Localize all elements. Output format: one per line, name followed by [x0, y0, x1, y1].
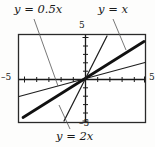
tick-label-y-negative-five: –5 [79, 119, 89, 128]
label-two-x-rhs: 2x [79, 129, 93, 143]
label-x-rhs: x [121, 2, 128, 16]
label-x-eq: = [105, 2, 122, 16]
graph-figure: y = 0.5x y = x y = 2x 5 –5 –5 5 [0, 0, 155, 147]
label-y-equals-half-x: y = 0.5x [14, 4, 62, 16]
label-y-equals-two-x: y = 2x [56, 131, 93, 143]
tick-label-y-positive-five: 5 [79, 21, 85, 30]
label-half-x-rhs: 0.5x [37, 2, 62, 16]
label-half-x-eq: = [21, 2, 38, 16]
label-two-x-eq: = [63, 129, 80, 143]
tick-label-x-negative-five: –5 [1, 73, 11, 82]
label-y-equals-x: y = x [98, 4, 128, 16]
tick-label-x-positive-five: 5 [149, 73, 155, 82]
plot-canvas [0, 0, 155, 147]
